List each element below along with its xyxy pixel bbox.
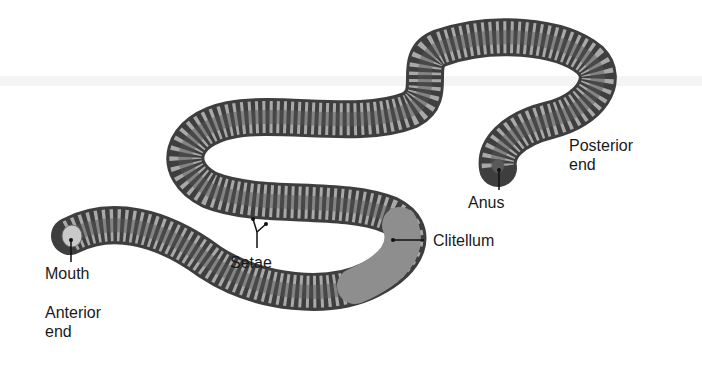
clitellum-point bbox=[391, 238, 395, 242]
anus-point bbox=[497, 168, 501, 172]
seta-point-1 bbox=[251, 217, 255, 221]
earthworm-illustration bbox=[0, 0, 702, 372]
worm-body-outline bbox=[70, 37, 598, 292]
clitellum-band bbox=[355, 225, 403, 286]
setae-label: Setae bbox=[230, 253, 272, 272]
seta-point-2 bbox=[264, 222, 268, 226]
posterior-end-label: Posterior end bbox=[569, 136, 633, 174]
worm-head-tip bbox=[62, 225, 82, 247]
anus-label: Anus bbox=[468, 193, 504, 212]
clitellum-label: Clitellum bbox=[433, 231, 494, 250]
earthworm-diagram: Mouth Anterior end Setae Clitellum Anus … bbox=[0, 0, 702, 372]
worm-body bbox=[62, 37, 598, 292]
mouth-label: Mouth bbox=[45, 264, 89, 283]
setae-leader-branch-1 bbox=[253, 219, 257, 232]
mouth-point bbox=[69, 238, 73, 242]
anterior-end-label: Anterior end bbox=[45, 303, 101, 341]
worm-segments bbox=[70, 37, 598, 292]
worm-shading bbox=[70, 37, 598, 292]
